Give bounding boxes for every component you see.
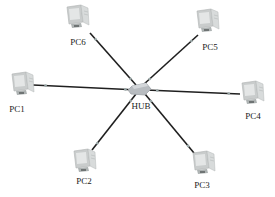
link-endpoint-marker [129, 77, 132, 80]
computer-icon [9, 71, 35, 97]
link-endpoint-marker [190, 40, 193, 43]
link-hub-pc2 [92, 94, 136, 150]
node-label-pc6: PC6 [70, 37, 86, 47]
network-diagram: PC1PC2PC3PC4PC5PC6 HUB [0, 0, 275, 197]
link-hub-pc4 [146, 89, 240, 95]
link-endpoint-marker [187, 145, 190, 148]
computer-icon [194, 8, 220, 34]
node-label-pc5: PC5 [202, 42, 218, 52]
node-label-pc3: PC3 [194, 180, 210, 190]
node-label-pc2: PC2 [76, 176, 92, 186]
node-pc5 [194, 8, 220, 34]
link-hub-pc3 [145, 94, 194, 153]
link-endpoint-marker [44, 84, 47, 87]
node-pc2 [71, 148, 97, 174]
link-hub-pc1 [33, 84, 138, 90]
hub-device [128, 82, 152, 100]
link-endpoint-marker [94, 38, 97, 41]
link-endpoint-marker [148, 78, 151, 81]
link-hub-pc5 [143, 35, 198, 85]
node-pc6 [64, 4, 90, 30]
computer-icon [64, 4, 90, 30]
hub-icon [128, 82, 152, 96]
link-endpoint-marker [124, 88, 127, 91]
link-endpoint-marker [96, 142, 99, 145]
computer-icon [71, 148, 97, 174]
computer-icon [190, 150, 216, 176]
node-label-pc1: PC1 [9, 104, 25, 114]
node-pc1 [9, 71, 35, 97]
link-endpoint-marker [227, 92, 230, 95]
link-hub-pc6 [90, 33, 136, 85]
node-pc3 [190, 150, 216, 176]
hub-label: HUB [131, 101, 150, 111]
link-endpoint-marker [156, 89, 159, 92]
node-label-pc4: PC4 [245, 111, 261, 121]
node-pc4 [239, 80, 265, 106]
computer-icon [239, 80, 265, 106]
